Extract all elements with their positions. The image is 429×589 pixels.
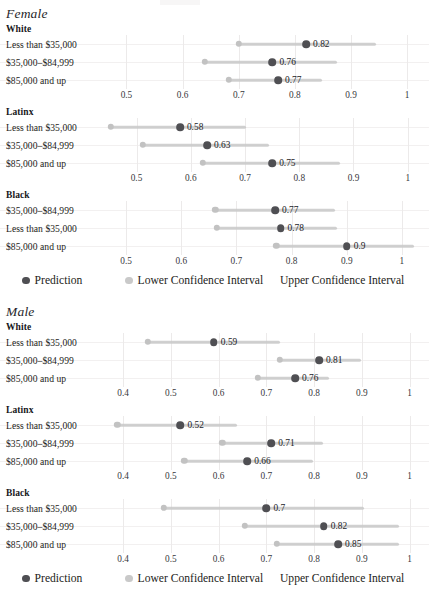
prediction-value-label: 0.76 — [279, 57, 295, 67]
x-axis-tick-label: 0.7 — [233, 90, 245, 100]
legend-item[interactable]: Upper Confidence Interval — [280, 274, 404, 287]
lower-ci-dot[interactable] — [242, 523, 248, 529]
legend-item[interactable]: Upper Confidence Interval — [280, 572, 404, 585]
x-axis-tick-label: 1 — [407, 554, 412, 564]
legend-label: Lower Confidence Interval — [138, 572, 264, 585]
prediction-dot[interactable] — [176, 123, 184, 131]
prediction-value-label: 0.59 — [221, 337, 237, 347]
chart-row: 0.85$85,000 and up — [0, 535, 429, 553]
gridline — [183, 53, 184, 71]
lower-ci-dot[interactable] — [277, 357, 283, 363]
lower-ci-dot[interactable] — [225, 77, 231, 83]
prediction-dot[interactable] — [269, 58, 277, 66]
gridline — [171, 351, 172, 369]
gridline — [171, 535, 172, 553]
lower-ci-dot[interactable] — [145, 339, 151, 345]
gridline — [362, 369, 363, 387]
x-axis-tick-label: 0.6 — [175, 256, 187, 266]
prediction-dot[interactable] — [334, 540, 342, 548]
prediction-value-label: 0.82 — [331, 521, 347, 531]
lower-ci-dot[interactable] — [274, 541, 280, 547]
x-axis-tick-label: 0.9 — [356, 388, 368, 398]
legend-item[interactable]: Lower Confidence Interval — [125, 274, 263, 287]
race-title: White — [6, 24, 429, 34]
prediction-dot[interactable] — [243, 457, 251, 465]
rows-group: 0.82Less than $35,0000.76$35,000–$84,999… — [0, 35, 429, 89]
prediction-dot[interactable] — [302, 40, 310, 48]
legend-label: Prediction — [35, 274, 83, 287]
race-title: Latinx — [6, 405, 429, 415]
gridline — [126, 219, 127, 237]
gridline — [410, 517, 411, 535]
lower-ci-dot[interactable] — [202, 59, 208, 65]
prediction-dot[interactable] — [177, 421, 185, 429]
lower-ci-dot[interactable] — [236, 41, 242, 47]
gridline — [123, 351, 124, 369]
lower-ci-dot[interactable] — [107, 124, 113, 130]
legend-item[interactable]: Prediction — [22, 274, 82, 287]
prediction-dot[interactable] — [268, 159, 276, 167]
lower-ci-dot[interactable] — [273, 243, 279, 249]
row-category-label: $35,000–$84,999 — [6, 438, 74, 449]
gridline — [123, 517, 124, 535]
x-axis-tick-label: 0.5 — [165, 471, 177, 481]
prediction-dot[interactable] — [320, 522, 328, 530]
lower-ci-dot[interactable] — [114, 422, 120, 428]
x-axis-tick-label: 0.7 — [231, 256, 243, 266]
gridline — [181, 237, 182, 255]
legend-item[interactable]: Lower Confidence Interval — [125, 572, 263, 585]
x-axis-tick-label: 1 — [407, 471, 412, 481]
x-axis-tick-label: 0.5 — [120, 256, 132, 266]
gridline — [407, 35, 408, 53]
lower-ci-dot[interactable] — [219, 440, 225, 446]
gridline — [191, 154, 192, 172]
prediction-dot[interactable] — [271, 206, 279, 214]
prediction-value-label: 0.63 — [214, 140, 230, 150]
row-category-label: $85,000 and up — [6, 241, 66, 252]
lower-ci-dot[interactable] — [255, 375, 261, 381]
chart-row: 0.71$35,000–$84,999 — [0, 434, 429, 452]
prediction-dot[interactable] — [343, 242, 351, 250]
lower-ci-dot[interactable] — [214, 225, 220, 231]
prediction-dot[interactable] — [277, 224, 285, 232]
lower-ci-dot[interactable] — [200, 160, 206, 166]
gridline — [314, 452, 315, 470]
rows-group: 0.59Less than $35,0000.81$35,000–$84,999… — [0, 333, 429, 387]
prediction-dot[interactable] — [274, 76, 282, 84]
gridline — [362, 333, 363, 351]
gridline — [181, 201, 182, 219]
gridline — [126, 201, 127, 219]
lower-ci-dot[interactable] — [160, 505, 166, 511]
prediction-dot[interactable] — [263, 504, 271, 512]
prediction-dot[interactable] — [210, 338, 218, 346]
panels-root: FemaleWhite0.82Less than $35,0000.76$35,… — [0, 0, 429, 589]
legend-label: Upper Confidence Interval — [280, 274, 404, 287]
chart-row: 0.82$35,000–$84,999 — [0, 517, 429, 535]
lower-ci-dot[interactable] — [181, 458, 187, 464]
x-axis-tick-label: 0.4 — [117, 554, 129, 564]
legend-item[interactable]: Prediction — [22, 572, 82, 585]
chart-row: 0.66$85,000 and up — [0, 452, 429, 470]
x-axis-tick-label: 0.6 — [213, 471, 225, 481]
row-category-label: $85,000 and up — [6, 539, 66, 550]
race-panel-white: White0.59Less than $35,0000.81$35,000–$8… — [0, 322, 429, 402]
prediction-dot[interactable] — [203, 141, 211, 149]
gridline — [353, 136, 354, 154]
race-title: Black — [6, 488, 429, 498]
lower-ci-dot[interactable] — [212, 207, 218, 213]
x-axis-tick-label: 0.6 — [213, 388, 225, 398]
row-category-label: $35,000–$84,999 — [6, 140, 74, 151]
chart-row: 0.58Less than $35,000 — [0, 118, 429, 136]
row-category-label: $85,000 and up — [6, 158, 66, 169]
gridline — [410, 452, 411, 470]
prediction-dot[interactable] — [291, 374, 299, 382]
prediction-dot[interactable] — [315, 356, 323, 364]
lower-ci-dot[interactable] — [140, 142, 146, 148]
prediction-dot[interactable] — [267, 439, 275, 447]
chart-legend: PredictionLower Confidence IntervalUpper… — [0, 274, 429, 296]
legend-label: Upper Confidence Interval — [280, 572, 404, 585]
sex-section-female: FemaleWhite0.82Less than $35,0000.76$35,… — [0, 0, 429, 296]
row-category-label: Less than $35,000 — [6, 223, 77, 234]
gridline — [219, 517, 220, 535]
x-axis-tick-label: 0.8 — [286, 256, 298, 266]
